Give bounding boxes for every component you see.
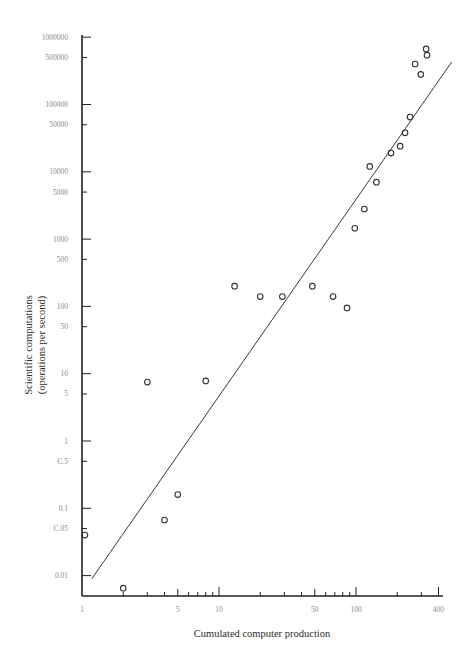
y-axis-title: Scientific computations (operations per … [23, 295, 48, 394]
data-point [162, 517, 168, 523]
y-tick-label: 1000000 [42, 33, 69, 42]
data-point [397, 143, 403, 149]
y-tick-label: 100 [57, 302, 69, 311]
y-tick-label: 1 [64, 437, 68, 446]
data-point [402, 130, 408, 136]
data-point [412, 61, 418, 67]
y-tick-label: 50000 [49, 120, 68, 129]
data-point [352, 225, 358, 231]
y-tick-label: 5 [64, 389, 68, 398]
x-axis: 151050100400 [80, 587, 444, 614]
x-axis-title: Cumulated computer production [194, 628, 331, 639]
y-tick-label: 5000 [53, 188, 68, 197]
y-tick-label: 50 [61, 322, 69, 331]
data-point [82, 532, 88, 538]
x-tick-label: 400 [433, 605, 445, 614]
data-point [367, 164, 373, 170]
data-point [423, 46, 429, 52]
data-point [344, 305, 350, 311]
y-tick-label: C.5 [57, 457, 68, 466]
y-tick-label: 500000 [46, 53, 69, 62]
data-points [82, 46, 430, 591]
data-point [424, 52, 430, 58]
trend-line [92, 62, 452, 579]
y-tick-label: 100000 [46, 100, 69, 109]
y-tick-label: 1000 [53, 235, 68, 244]
plot-area [82, 46, 452, 591]
data-point [175, 492, 181, 498]
data-point [280, 294, 286, 300]
y-tick-label: 500 [57, 255, 69, 264]
data-point [145, 379, 151, 385]
y-tick-label: 10000 [49, 167, 68, 176]
data-point [330, 294, 336, 300]
x-tick-label: 50 [311, 605, 319, 614]
data-point [257, 294, 263, 300]
x-tick-label: 10 [215, 605, 223, 614]
chart-canvas: 1000000500000100000500001000050001000500… [0, 0, 471, 667]
data-point [310, 283, 316, 289]
data-point [418, 72, 424, 78]
x-tick-label: 100 [350, 605, 362, 614]
y-tick-label: C.05 [54, 524, 69, 533]
data-point [374, 179, 380, 185]
data-point [232, 283, 238, 289]
data-point [120, 585, 126, 591]
y-axis-title-line-1: Scientific computations [23, 295, 34, 394]
y-tick-label: 0.01 [55, 571, 68, 580]
y-tick-label: 10 [61, 369, 69, 378]
x-tick-label: 1 [80, 605, 84, 614]
x-tick-label: 5 [176, 605, 180, 614]
data-point [362, 206, 368, 212]
y-axis-title-line-2: (operations per second) [36, 295, 48, 394]
y-axis: 1000000500000100000500001000050001000500… [42, 33, 91, 596]
data-point [388, 150, 394, 156]
data-point [203, 378, 209, 384]
y-tick-label: 0.1 [59, 504, 69, 513]
data-point [407, 114, 413, 120]
